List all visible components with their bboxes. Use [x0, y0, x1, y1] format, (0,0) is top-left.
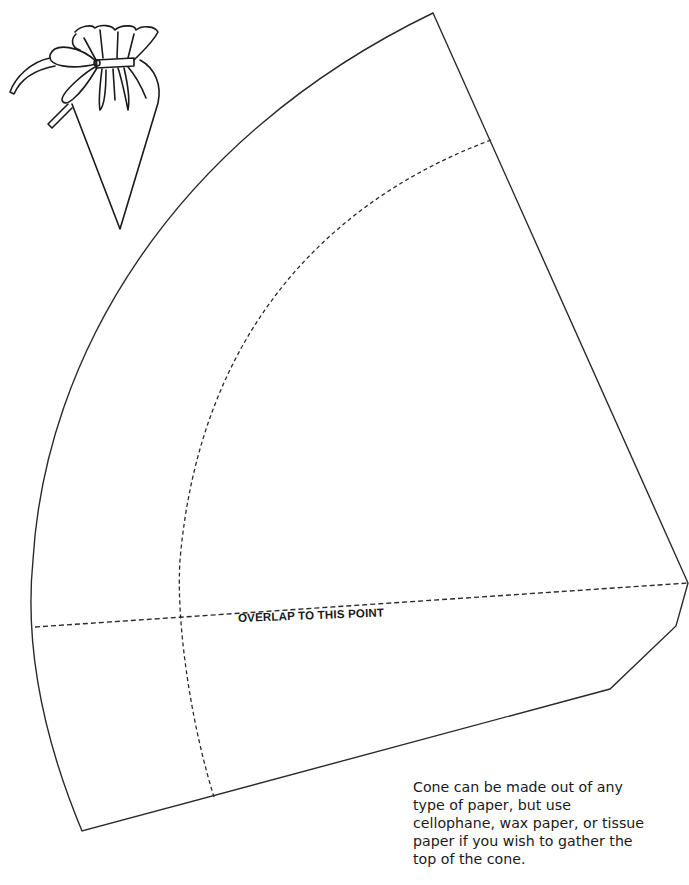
- instructions-line: paper if you wish to gather the: [413, 832, 689, 850]
- instructions-text: Cone can be made out of any type of pape…: [413, 778, 689, 868]
- pattern-cut-outline: [31, 13, 688, 831]
- instructions-line: type of paper, but use: [413, 796, 689, 814]
- instructions-line: Cone can be made out of any: [413, 778, 689, 796]
- inner-dashed-arc: [179, 140, 491, 797]
- overlap-dashed-line: [35, 583, 688, 627]
- cone-illustration-icon: [10, 26, 159, 229]
- cone-pattern-drawing: [0, 0, 689, 885]
- instructions-line: cellophane, wax paper, or tissue: [413, 814, 689, 832]
- instructions-line: top of the cone.: [413, 850, 689, 868]
